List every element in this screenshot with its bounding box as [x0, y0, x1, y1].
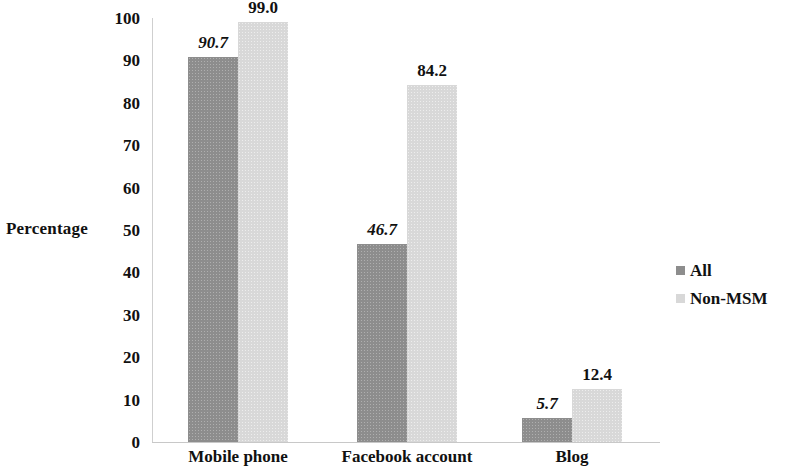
bar-nonmsm: [407, 85, 457, 442]
y-tick-label: 50: [88, 222, 140, 239]
y-tick-label: 0: [88, 434, 140, 451]
y-tick-label: 100: [88, 10, 140, 27]
y-tick-label: 60: [88, 179, 140, 196]
x-category-label: Blog: [555, 448, 588, 465]
bar-value-label: 99.0: [248, 0, 278, 16]
legend-swatch-icon: [676, 266, 685, 275]
y-tick-label: 90: [88, 52, 140, 69]
bar-value-label: 84.2: [417, 62, 447, 79]
y-tick-label: 40: [88, 264, 140, 281]
x-axis-line: [152, 442, 660, 443]
y-tick-label: 30: [88, 306, 140, 323]
bar-chart-figure: Percentage 1009080706050403020100 90.799…: [0, 0, 788, 473]
x-category-label: Mobile phone: [188, 448, 288, 465]
legend-label: All: [690, 262, 712, 279]
y-tick-label: 10: [88, 391, 140, 408]
plot-area: 1009080706050403020100 90.799.046.784.25…: [152, 18, 660, 443]
bar-value-label: 5.7: [536, 395, 557, 412]
legend-swatch-icon: [676, 294, 685, 303]
bar-all: [357, 244, 407, 442]
bar-all: [522, 418, 572, 442]
bar-nonmsm: [572, 389, 622, 442]
legend-item-all[interactable]: All: [676, 256, 786, 284]
bar-all: [188, 57, 238, 442]
y-tick-label: 70: [88, 137, 140, 154]
bar-value-label: 12.4: [582, 366, 612, 383]
legend: AllNon-MSM: [676, 256, 786, 312]
x-category-label: Facebook account: [342, 448, 473, 465]
y-tick-label: 20: [88, 349, 140, 366]
bar-nonmsm: [238, 22, 288, 442]
y-axis-line: [152, 18, 153, 443]
legend-label: Non-MSM: [690, 290, 767, 307]
bar-value-label: 46.7: [367, 221, 397, 238]
legend-item-nonmsm[interactable]: Non-MSM: [676, 284, 786, 312]
y-tick-label: 80: [88, 94, 140, 111]
bar-value-label: 90.7: [198, 34, 228, 51]
